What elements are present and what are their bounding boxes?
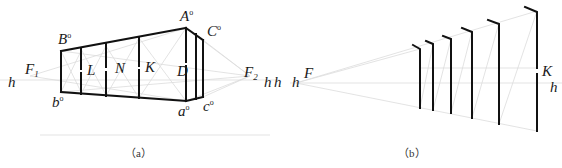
label-K-a: K xyxy=(145,60,155,75)
label-h-right-a: h xyxy=(274,75,282,90)
post-6 xyxy=(525,7,537,131)
label-F2: F2 xyxy=(244,65,258,82)
label-c: co xyxy=(203,99,214,114)
label-h-left-b: h xyxy=(264,75,272,90)
label-D: D xyxy=(177,64,188,79)
post-2 xyxy=(426,41,433,110)
caption-a: （a） xyxy=(125,148,152,159)
posts-b xyxy=(413,7,537,131)
label-a: ao xyxy=(178,104,190,119)
post-3 xyxy=(443,36,451,113)
construction-lines-b xyxy=(290,11,562,131)
label-h-right-b: h xyxy=(550,80,558,95)
post-5 xyxy=(488,20,499,124)
label-K-b: K xyxy=(542,64,552,79)
label-B: Bo xyxy=(58,32,71,47)
label-L: L xyxy=(87,63,95,78)
label-C: Co xyxy=(207,24,221,39)
post-4 xyxy=(462,28,472,118)
label-h-left-a: h xyxy=(8,75,16,90)
post-1 xyxy=(413,45,420,108)
label-A: Ao xyxy=(180,9,193,24)
caption-b: （b） xyxy=(398,148,426,159)
label-F1: F1 xyxy=(25,62,39,79)
label-b: bo xyxy=(52,95,64,110)
label-F-b: F xyxy=(304,66,313,81)
label-N: N xyxy=(115,61,125,76)
label-h-mid-b: h xyxy=(292,75,300,90)
